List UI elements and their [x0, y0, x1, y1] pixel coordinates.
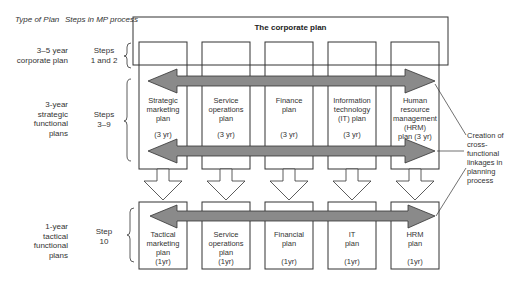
brace-corporate — [124, 43, 131, 68]
strategic-plan-period-2: (3 yr) — [202, 130, 250, 139]
down-arrow-2 — [207, 169, 245, 200]
corporate-plan-title: The corporate plan — [133, 23, 448, 32]
strategic-plan-name-4: Information technology (IT) plan — [326, 96, 378, 123]
down-arrow-4 — [333, 169, 371, 200]
strategic-plan-name-5: Human resource management (HRM) plan (3 … — [387, 96, 443, 141]
tactical-plan-period-3: (1yr) — [265, 257, 313, 266]
strategic-plan-period-1: (3 yr) — [139, 130, 187, 139]
down-arrow-1 — [144, 169, 182, 200]
strategic-plan-name-2: Service operations plan — [202, 96, 250, 123]
strategic-plan-period-3: (3 yr) — [265, 130, 313, 139]
brace-tactical — [127, 208, 134, 262]
tactical-plan-period-1: (1yr) — [139, 257, 187, 266]
double-arrow-top — [148, 69, 435, 93]
cross-functional-annotation: Creation of cross- functional linkages i… — [467, 131, 516, 185]
tactical-plan-name-3: Financial plan — [265, 230, 313, 248]
down-arrow-3 — [270, 169, 308, 200]
double-arrow-middle — [148, 139, 435, 163]
tactical-plan-period-4: (1yr) — [328, 257, 376, 266]
tactical-plan-period-5: (1yr) — [391, 257, 439, 266]
leader-line-bottom — [436, 168, 466, 216]
strategic-plan-name-3: Finance plan — [265, 96, 313, 114]
tactical-plan-name-1: Tactical marketing plan — [139, 230, 187, 257]
tactical-plan-name-5: HRM plan — [391, 230, 439, 248]
tactical-plan-name-4: IT plan — [328, 230, 376, 248]
tactical-plan-period-2: (1yr) — [202, 257, 250, 266]
tactical-plan-name-2: Service operations plan — [202, 230, 250, 257]
double-arrow-bottom — [150, 205, 435, 228]
strategic-plan-name-1: Strategic marketing plan — [139, 96, 187, 123]
down-arrow-5 — [396, 169, 434, 200]
brace-strategic — [124, 79, 131, 161]
strategic-plan-period-4: (3 yr) — [328, 130, 376, 139]
